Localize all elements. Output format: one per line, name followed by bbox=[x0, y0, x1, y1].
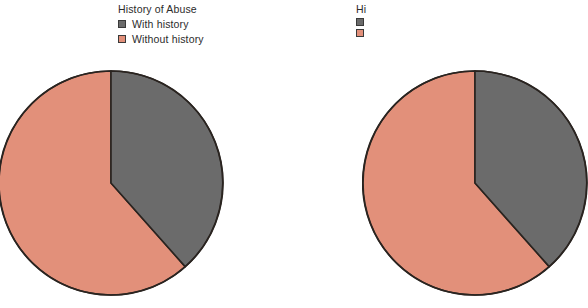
pie-chart-primary bbox=[0, 70, 224, 296]
legend-item-with-history[interactable]: With history bbox=[118, 18, 204, 30]
legend-label-with-history: With history bbox=[132, 18, 189, 30]
legend-label-without-history: Without history bbox=[132, 33, 204, 45]
legend-primary: History of Abuse With history Without hi… bbox=[118, 3, 204, 45]
legend-item-without-history-secondary[interactable] bbox=[356, 29, 370, 37]
legend-swatch-without-history-secondary bbox=[356, 29, 364, 37]
legend-item-with-history-secondary[interactable] bbox=[356, 18, 370, 26]
pie-chart-secondary bbox=[362, 70, 588, 296]
legend-secondary: Hi bbox=[356, 3, 370, 37]
pie-svg-secondary bbox=[362, 70, 588, 296]
legend-item-without-history[interactable]: Without history bbox=[118, 33, 204, 45]
legend-title-secondary: Hi bbox=[356, 3, 370, 15]
legend-swatch-with-history bbox=[118, 20, 126, 28]
legend-swatch-without-history bbox=[118, 35, 126, 43]
pie-svg-primary bbox=[0, 70, 224, 296]
legend-swatch-with-history-secondary bbox=[356, 18, 364, 26]
legend-title: History of Abuse bbox=[118, 3, 204, 15]
